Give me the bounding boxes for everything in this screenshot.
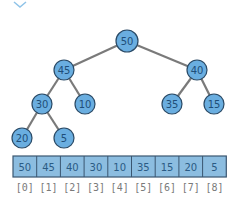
array-cell-value: 15 [161,162,174,173]
corner-marker-icon [14,2,26,7]
tree-node: 15 [204,94,224,114]
node-value: 50 [121,36,134,47]
heap-diagram: 50454030103515205 50454030103515205 [0][… [0,0,239,208]
array-cell-value: 50 [18,162,31,173]
array-index-label: [2] [63,182,81,193]
array-index-label: [7] [182,182,200,193]
array-cell-value: 10 [113,162,126,173]
node-value: 5 [61,133,67,144]
array-index-label: [0] [16,182,34,193]
tree-nodes: 50454030103515205 [12,30,224,148]
array-cell: 50 [18,162,31,173]
node-value: 15 [208,99,221,110]
tree-node: 10 [75,94,95,114]
array-index-label: [4] [111,182,129,193]
tree-node: 30 [32,94,52,114]
array-index-label: [1] [40,182,58,193]
heap-array: 50454030103515205 [13,156,226,177]
tree-node: 20 [12,128,32,148]
array-cell-value: 30 [90,162,103,173]
array-cell-value: 20 [184,162,197,173]
array-index-label: [6] [158,182,176,193]
array-cell-value: 35 [137,162,150,173]
array-cell-value: 45 [42,162,55,173]
array-cell-value: 5 [211,162,217,173]
tree-node: 45 [54,60,74,80]
array-index-label: [3] [87,182,105,193]
node-value: 40 [191,65,204,76]
node-value: 10 [79,99,92,110]
array-index-label: [5] [134,182,152,193]
array-cell-value: 40 [66,162,79,173]
heap-diagram-canvas: 50454030103515205 50454030103515205 [0][… [0,0,239,208]
tree-node: 50 [116,30,138,52]
tree-node: 40 [187,60,207,80]
node-value: 30 [36,99,49,110]
node-value: 20 [16,133,29,144]
array-index-label: [8] [205,182,223,193]
node-value: 45 [58,65,71,76]
tree-node: 5 [54,128,74,148]
tree-node: 35 [162,94,182,114]
node-value: 35 [166,99,179,110]
tree-edges [22,41,214,138]
array-indices: [0][1][2][3][4][5][6][7][8] [16,182,224,193]
